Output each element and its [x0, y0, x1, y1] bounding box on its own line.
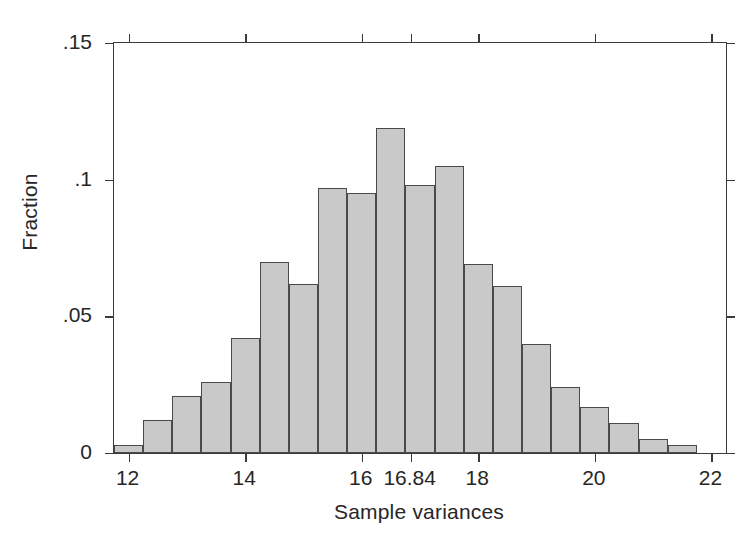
histogram-bar: [464, 264, 493, 453]
histogram-bar: [435, 166, 464, 453]
x-axis-tick-mark: [595, 34, 596, 43]
histogram-bar: [580, 407, 609, 453]
histogram-bar: [318, 188, 347, 453]
histogram-bar: [522, 344, 551, 453]
x-axis-tick-label: 12: [116, 466, 139, 490]
y-axis-tick-labels: 0.05.1.15: [14, 0, 92, 558]
histogram-bar: [201, 382, 230, 453]
histogram-bar: [231, 338, 260, 453]
histogram-bar: [609, 423, 638, 453]
x-axis-tick-mark: [245, 34, 246, 43]
x-axis-tick-mark: [711, 34, 712, 43]
x-axis-tick-mark: [129, 34, 130, 43]
x-axis-tick-label: 18: [466, 466, 489, 490]
x-axis-tick-mark: [411, 453, 412, 462]
x-axis-tick-label: 14: [232, 466, 255, 490]
x-axis-title: Sample variances: [113, 500, 725, 524]
y-axis-tick-mark: [726, 316, 735, 317]
histogram-bar: [405, 185, 434, 453]
y-axis-tick-mark: [105, 43, 114, 44]
histogram-bar: [260, 262, 289, 453]
x-axis-tick-mark: [129, 453, 130, 462]
y-axis-tick-label: 0: [80, 440, 92, 464]
x-axis-tick-mark: [478, 34, 479, 43]
x-axis-tick-label: 20: [582, 466, 605, 490]
histogram-bar: [143, 420, 172, 453]
x-axis-tick-mark: [711, 453, 712, 462]
histogram-bar: [376, 128, 405, 453]
x-axis-tick-label: 16.84: [383, 466, 436, 490]
x-axis-tick-mark: [411, 34, 412, 43]
y-axis-tick-label: .05: [63, 303, 92, 327]
histogram-bar: [639, 439, 668, 453]
histogram-bar: [289, 284, 318, 453]
y-axis-tick-label: .1: [74, 167, 92, 191]
x-axis-tick-mark: [478, 453, 479, 462]
x-axis-tick-mark: [595, 453, 596, 462]
histogram-bar: [172, 396, 201, 453]
histogram-bar: [493, 286, 522, 453]
histogram-bar: [668, 445, 697, 453]
y-axis-tick-mark: [105, 316, 114, 317]
x-axis-tick-label: 16: [349, 466, 372, 490]
histogram-bar: [114, 445, 143, 453]
y-axis-tick-mark: [726, 43, 735, 44]
histogram-figure: Fraction 0.05.1.15 12141616.84182022 Sam…: [0, 0, 754, 558]
x-axis-tick-label: 22: [699, 466, 722, 490]
y-axis-tick-label: .15: [63, 30, 92, 54]
plot-inner: [114, 43, 726, 453]
y-axis-tick-mark: [105, 453, 114, 454]
x-axis-tick-mark: [245, 453, 246, 462]
y-axis-tick-mark: [105, 180, 114, 181]
histogram-bar: [551, 387, 580, 453]
x-axis-tick-mark: [362, 453, 363, 462]
y-axis-tick-mark: [726, 180, 735, 181]
y-axis-tick-mark: [726, 453, 735, 454]
histogram-bar: [347, 193, 376, 453]
x-axis-tick-mark: [362, 34, 363, 43]
plot-area: [113, 42, 727, 454]
